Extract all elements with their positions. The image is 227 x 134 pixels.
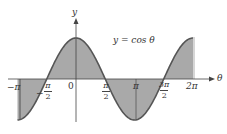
tick-pi-over-2: π 2: [102, 82, 110, 101]
x-axis-label: θ: [217, 74, 222, 83]
tick-two-pi: 2π: [186, 82, 198, 91]
tick-pi: π: [133, 82, 139, 91]
cosine-graph: [0, 0, 227, 134]
tick-neg-pi-over-2: π 2: [44, 82, 52, 101]
tick-three-pi-over-2: 3π 2: [158, 81, 170, 100]
tick-neg-pi: −π: [7, 83, 20, 92]
equation-label: y = cos θ: [113, 36, 155, 45]
tick-neg-pi-over-2-sign: −: [36, 89, 44, 98]
x-axis-arrow-icon: [209, 77, 215, 82]
y-axis-arrow-icon: [74, 18, 79, 24]
y-axis-label: y: [72, 8, 77, 17]
tick-zero: 0: [68, 82, 74, 91]
